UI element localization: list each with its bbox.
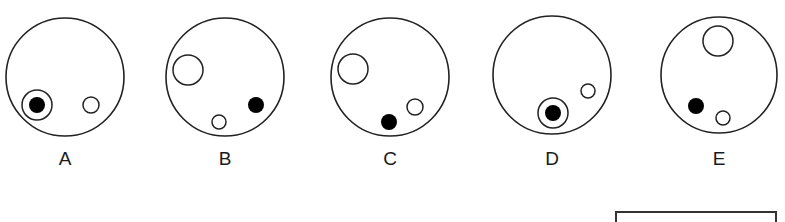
open-circle	[407, 99, 423, 115]
option-label-c: C	[375, 148, 405, 170]
option-label-b: B	[210, 148, 240, 170]
option-label-d: D	[537, 148, 567, 170]
filled-dot	[248, 97, 264, 113]
filled-dot	[29, 97, 45, 113]
outer-circle	[661, 17, 777, 133]
option-c	[331, 18, 449, 136]
open-circle	[338, 54, 368, 84]
options-figure	[0, 0, 785, 222]
open-circle	[173, 55, 203, 85]
filled-dot	[545, 105, 561, 121]
open-circle	[703, 26, 733, 56]
filled-dot	[688, 98, 704, 114]
option-label-a: A	[50, 148, 80, 170]
outer-circle	[6, 18, 124, 136]
open-circle	[83, 97, 99, 113]
open-circle	[581, 84, 595, 98]
open-circle	[716, 111, 730, 125]
option-d	[493, 16, 611, 134]
option-e	[661, 17, 777, 133]
option-b	[166, 18, 284, 136]
answer-box	[615, 211, 777, 222]
option-label-e: E	[704, 148, 734, 170]
option-a	[6, 18, 124, 136]
filled-dot	[381, 114, 397, 130]
open-circle	[212, 115, 226, 129]
